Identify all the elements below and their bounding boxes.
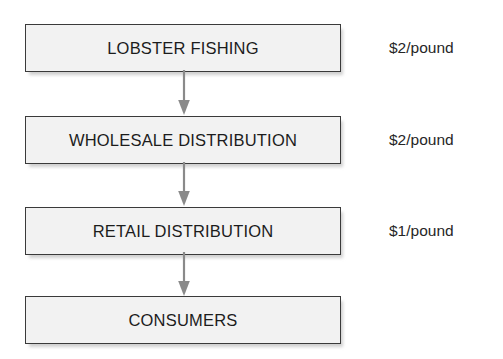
flow-node-label: WHOLESALE DISTRIBUTION xyxy=(69,132,297,149)
price-label-wholesale-distribution: $2/pound xyxy=(389,132,503,148)
flowchart-diagram: LOBSTER FISHING $2/pound WHOLESALE DISTR… xyxy=(0,0,503,359)
flow-node-label: CONSUMERS xyxy=(128,312,237,329)
flow-node-retail-distribution: RETAIL DISTRIBUTION xyxy=(25,207,341,255)
flow-node-lobster-fishing: LOBSTER FISHING xyxy=(25,24,341,72)
arrow-down-icon xyxy=(172,162,196,208)
price-label-retail-distribution: $1/pound xyxy=(389,223,503,239)
flow-node-consumers: CONSUMERS xyxy=(25,296,341,344)
flow-node-label: RETAIL DISTRIBUTION xyxy=(93,223,274,240)
flow-node-label: LOBSTER FISHING xyxy=(107,40,259,57)
flow-node-wholesale-distribution: WHOLESALE DISTRIBUTION xyxy=(25,116,341,164)
price-label-lobster-fishing: $2/pound xyxy=(389,40,503,56)
arrow-down-icon xyxy=(172,252,196,298)
arrow-down-icon xyxy=(172,70,196,116)
